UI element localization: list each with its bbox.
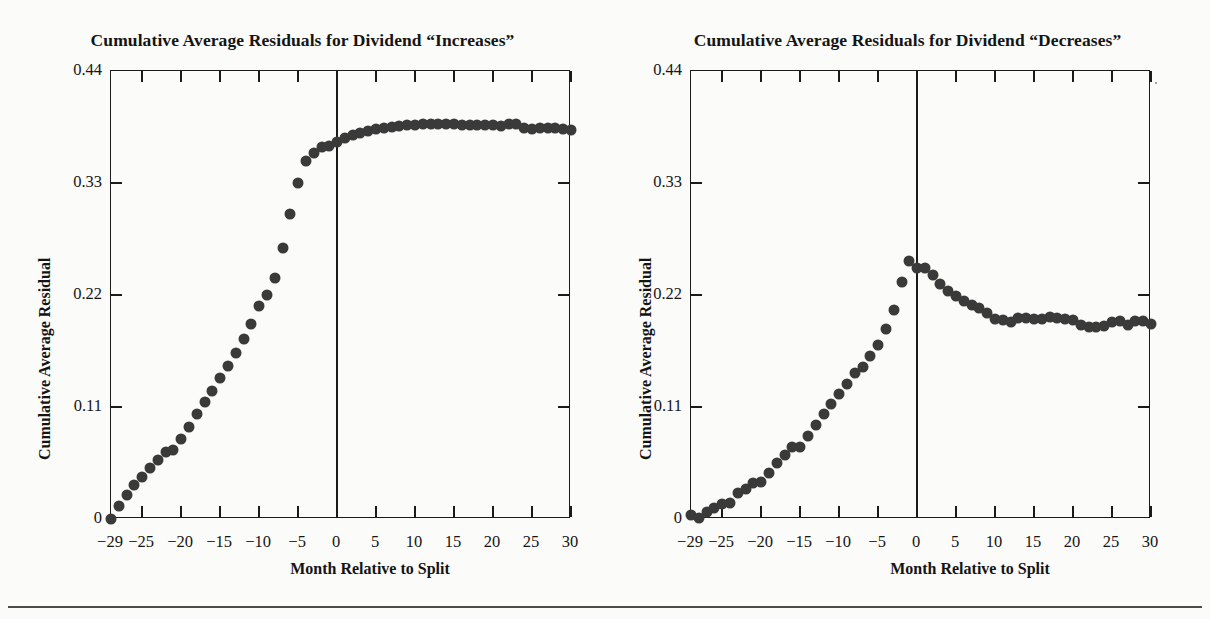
data-point — [246, 318, 257, 329]
plot-area-decreases — [690, 70, 1150, 518]
x-tick-bottom — [219, 506, 221, 517]
data-point — [176, 433, 187, 444]
data-point — [880, 323, 891, 334]
data-point — [222, 361, 233, 372]
x-tick-bottom — [760, 506, 762, 517]
x-axis-label-increases: Month Relative to Split — [220, 560, 520, 578]
y-tick-left — [691, 294, 702, 296]
x-axis-label-decreases: Month Relative to Split — [820, 560, 1120, 578]
data-point — [168, 444, 179, 455]
x-tick-bottom — [492, 506, 494, 517]
data-point — [230, 348, 241, 359]
x-tick-bottom — [1072, 506, 1074, 517]
x-tick-top — [414, 71, 416, 82]
data-point — [834, 388, 845, 399]
data-point — [215, 373, 226, 384]
data-point — [795, 441, 806, 452]
data-point — [137, 472, 148, 483]
y-tick-right — [558, 182, 569, 184]
data-point — [763, 468, 774, 479]
x-tick-bottom — [531, 506, 533, 517]
x-tick-label: 10 — [986, 532, 1003, 552]
x-tick-top — [877, 71, 879, 82]
data-point — [841, 378, 852, 389]
panel-decreases: Cumulative Average Residuals for Dividen… — [605, 0, 1210, 619]
data-point — [113, 500, 124, 511]
x-tick-top — [375, 71, 377, 82]
x-tick-top — [799, 71, 801, 82]
data-point — [857, 362, 868, 373]
x-tick-top — [1111, 71, 1113, 82]
x-tick-top — [570, 71, 572, 82]
x-tick-label: −29 — [97, 532, 123, 552]
x-tick-bottom — [258, 506, 260, 517]
x-tick-top — [453, 71, 455, 82]
data-point — [199, 396, 210, 407]
footer-rule — [8, 606, 1202, 608]
x-tick-top — [531, 71, 533, 82]
x-tick-bottom — [877, 506, 879, 517]
y-tick-left — [111, 182, 122, 184]
x-tick-bottom — [570, 506, 572, 517]
data-point — [254, 301, 265, 312]
data-point — [810, 420, 821, 431]
x-tick-bottom — [1033, 506, 1035, 517]
y-tick-label: 0.22 — [52, 284, 102, 304]
y-tick-label: 0.33 — [632, 172, 682, 192]
y-tick-label: 0 — [632, 508, 682, 528]
x-tick-top — [838, 71, 840, 82]
data-point — [106, 514, 117, 525]
data-point — [277, 243, 288, 254]
data-point — [293, 178, 304, 189]
data-point — [802, 430, 813, 441]
y-tick-label: 0.11 — [52, 396, 102, 416]
x-tick-label: −10 — [825, 532, 851, 552]
y-tick-right — [1138, 294, 1149, 296]
y-tick-label: 0 — [52, 508, 102, 528]
x-tick-label: −10 — [245, 532, 271, 552]
x-tick-top — [180, 71, 182, 82]
x-tick-bottom — [1111, 506, 1113, 517]
x-tick-bottom — [955, 506, 957, 517]
x-tick-label: 10 — [406, 532, 423, 552]
data-point — [724, 497, 735, 508]
x-tick-top — [1072, 71, 1074, 82]
x-tick-top — [492, 71, 494, 82]
data-point — [826, 398, 837, 409]
x-tick-label: −5 — [868, 532, 886, 552]
x-tick-top — [219, 71, 221, 82]
x-tick-top — [1033, 71, 1035, 82]
x-tick-bottom — [838, 506, 840, 517]
data-point — [865, 351, 876, 362]
plot-area-increases — [110, 70, 570, 518]
x-tick-label: 20 — [1064, 532, 1081, 552]
y-tick-label: 0.44 — [52, 60, 102, 80]
x-tick-top — [1150, 71, 1152, 82]
x-tick-top — [141, 71, 143, 82]
y-tick-right — [558, 406, 569, 408]
x-tick-label: −29 — [677, 532, 703, 552]
y-tick-left — [691, 182, 702, 184]
x-tick-label: 5 — [371, 532, 379, 552]
y-tick-label: 0.44 — [632, 60, 682, 80]
scan-speck — [1155, 82, 1157, 84]
data-point — [566, 125, 577, 136]
x-tick-label: 15 — [1025, 532, 1042, 552]
data-point — [261, 290, 272, 301]
x-tick-bottom — [1150, 506, 1152, 517]
y-tick-right — [1138, 406, 1149, 408]
x-tick-label: 5 — [951, 532, 959, 552]
x-tick-label: −20 — [747, 532, 773, 552]
x-tick-label: −25 — [128, 532, 154, 552]
data-point — [207, 385, 218, 396]
x-tick-label: −25 — [708, 532, 734, 552]
data-point — [269, 272, 280, 283]
x-tick-top — [258, 71, 260, 82]
data-point — [888, 305, 899, 316]
x-tick-label: −15 — [786, 532, 812, 552]
y-tick-label: 0.11 — [632, 396, 682, 416]
x-tick-bottom — [297, 506, 299, 517]
y-tick-left — [111, 294, 122, 296]
x-tick-label: 30 — [1142, 532, 1159, 552]
event-vertical-line — [916, 71, 918, 517]
